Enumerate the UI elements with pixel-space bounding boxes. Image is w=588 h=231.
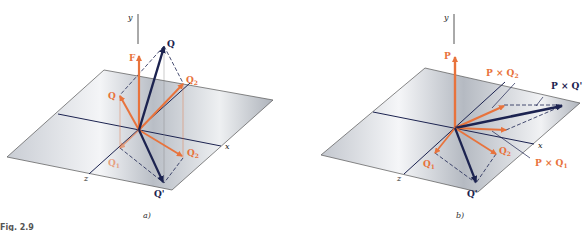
label-F: F	[129, 53, 136, 63]
label-Q: Q	[167, 39, 175, 49]
label-Q-prime: Q'	[467, 189, 478, 199]
figure-canvas: y x z F Q Q Q2 Q1 Q2 Q' a)	[0, 0, 588, 231]
label-Q2: Q2	[186, 75, 198, 86]
subcaption-a: a)	[143, 211, 151, 220]
z-axis-label: z	[83, 174, 89, 183]
figure-caption-label: Fig. 2.9	[0, 223, 34, 231]
label-PxQ-prime: P × Q'	[551, 81, 582, 91]
x-axis-label: x	[225, 142, 230, 151]
x-axis-label: x	[538, 141, 543, 150]
panel-a: y x z F Q Q Q2 Q1 Q2 Q' a)	[7, 13, 273, 220]
label-Q-prime: Q'	[154, 189, 165, 199]
y-axis-label: y	[127, 13, 133, 22]
label-P: P	[444, 51, 451, 61]
z-axis-label: z	[396, 174, 402, 183]
y-axis-label: y	[443, 13, 449, 22]
xz-plane	[321, 68, 580, 192]
label-PxQ1-prime: P × Q1	[535, 158, 568, 169]
panel-b: y x z P P × Q2 P × Q' P × Q1 Q1 Q2 Q'	[321, 13, 582, 220]
label-PxQ2-prime: P × Q2	[486, 68, 519, 79]
label-Q1: Q	[108, 91, 116, 101]
subcaption-b: b)	[456, 211, 464, 220]
